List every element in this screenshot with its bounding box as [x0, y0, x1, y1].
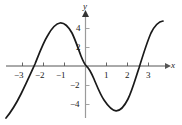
x-tick-label-1: 1 — [104, 71, 109, 80]
y-tick-label--4: −4 — [70, 100, 80, 109]
x-tick-label--3: −3 — [14, 71, 24, 80]
y-tick-label--2: −2 — [70, 81, 80, 90]
y-axis-label: y — [83, 2, 87, 11]
x-axis-label: x — [171, 61, 175, 70]
x-tick-label-3: 3 — [146, 71, 151, 80]
coordinate-plot — [0, 0, 182, 125]
graph-figure: −3 −2 −1 1 2 3 4 2 −2 −4 x y — [0, 0, 182, 125]
y-tick-label-4: 4 — [76, 24, 81, 33]
x-tick-label-2: 2 — [125, 71, 130, 80]
x-tick-label--1: −1 — [56, 71, 66, 80]
x-tick-label--2: −2 — [35, 71, 45, 80]
function-curve — [6, 21, 163, 118]
y-tick-label-2: 2 — [76, 43, 81, 52]
